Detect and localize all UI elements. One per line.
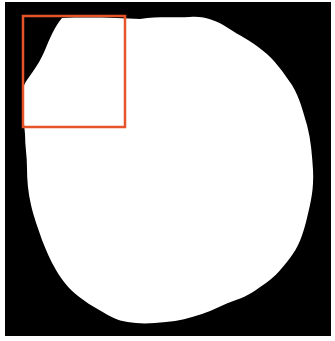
white-blob-region — [22, 17, 313, 324]
mask-image — [0, 0, 335, 341]
image-viewer — [0, 0, 335, 341]
